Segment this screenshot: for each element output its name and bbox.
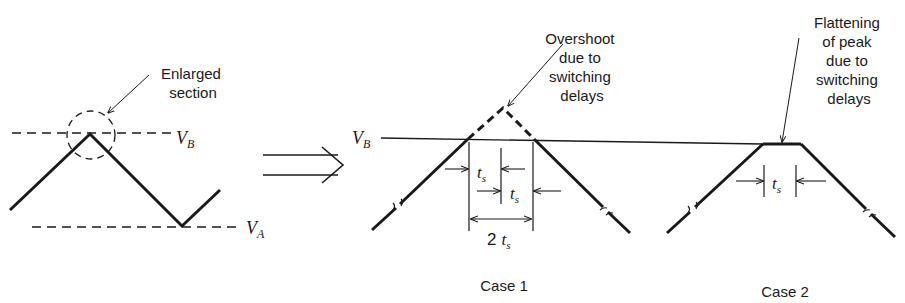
switching-delay-diagram: VB VA Enlarged section VB bbox=[0, 0, 905, 303]
case2-flattening-pointer-arrow bbox=[782, 38, 799, 142]
case1-ts-label-2: ts bbox=[510, 184, 519, 205]
va-label: VA bbox=[246, 218, 265, 241]
case1-vb-label: VB bbox=[352, 128, 371, 151]
case2-flattening-panel: ts Flattening of peak due to switching d… bbox=[667, 14, 895, 300]
case2-flattening-annotation: Flattening of peak due to switching dela… bbox=[814, 14, 884, 107]
case1-2ts-label: 2ts bbox=[487, 230, 510, 251]
vb-reference-line bbox=[381, 138, 763, 144]
case1-ts-label-1: ts bbox=[477, 163, 486, 184]
overview-waveform-panel: VB VA Enlarged section bbox=[10, 65, 265, 241]
case1-rising-slope bbox=[372, 208, 396, 230]
enlarged-section-pointer-arrow bbox=[108, 75, 149, 113]
case2-falling-slope bbox=[801, 144, 866, 209]
case1-overshoot-dashed-peak bbox=[468, 108, 534, 139]
case1-falling-slope bbox=[534, 139, 603, 207]
double-right-arrow-icon bbox=[263, 147, 343, 183]
enlarged-section-label: Enlarged section bbox=[161, 65, 225, 101]
case2-caption: Case 2 bbox=[761, 283, 809, 300]
case2-ts-label: ts bbox=[772, 174, 781, 195]
case1-overshoot-panel: VB ts ts 2ts bbox=[352, 30, 763, 294]
case2-rising-slope bbox=[667, 212, 690, 233]
case1-overshoot-annotation: Overshoot due to switching delays bbox=[545, 30, 618, 104]
case1-caption: Case 1 bbox=[480, 277, 528, 294]
vb-label: VB bbox=[176, 128, 195, 151]
